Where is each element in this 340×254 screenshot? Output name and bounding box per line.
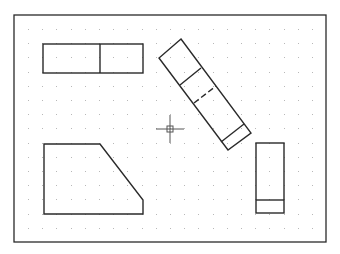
grid-dot: [28, 128, 29, 129]
grid-dot: [85, 86, 86, 87]
grid-dot: [312, 157, 313, 158]
grid-dot: [170, 214, 171, 215]
grid-dot: [99, 128, 100, 129]
grid-dot: [269, 228, 270, 229]
grid-dot: [213, 43, 214, 44]
grid-dot: [198, 128, 199, 129]
grid-dot: [127, 114, 128, 115]
grid-dot: [56, 114, 57, 115]
grid-dot: [198, 228, 199, 229]
grid-dot: [28, 72, 29, 73]
grid-dot: [71, 114, 72, 115]
grid-dot: [198, 57, 199, 58]
grid-dot: [227, 57, 228, 58]
grid-dot: [184, 228, 185, 229]
grid-dot: [184, 171, 185, 172]
grid-dot: [56, 185, 57, 186]
grid-dot: [142, 143, 143, 144]
grid-dot: [312, 100, 313, 101]
grid-dot: [227, 157, 228, 158]
grid-dot: [71, 57, 72, 58]
grid-dot: [42, 185, 43, 186]
grid-dot: [213, 157, 214, 158]
grid-dot: [85, 185, 86, 186]
grid-dot: [213, 114, 214, 115]
rotated-bar[interactable]: [159, 39, 251, 150]
grid-dot: [255, 100, 256, 101]
grid-dot: [71, 228, 72, 229]
grid-dot: [312, 199, 313, 200]
grid-dot: [127, 171, 128, 172]
grid-dot: [142, 29, 143, 30]
grid-dot: [113, 100, 114, 101]
grid-dot: [255, 43, 256, 44]
grid-dot: [227, 114, 228, 115]
grid-dot: [99, 157, 100, 158]
grid-dot: [156, 100, 157, 101]
grid-dot: [42, 228, 43, 229]
grid-dot: [56, 228, 57, 229]
grid-dot: [28, 199, 29, 200]
grid-dot: [241, 100, 242, 101]
grid-dot: [142, 86, 143, 87]
grid-dot: [269, 72, 270, 73]
grid-dot: [113, 228, 114, 229]
grid-dot: [71, 29, 72, 30]
grid-dot: [127, 185, 128, 186]
grid-dot: [85, 199, 86, 200]
grid-dot: [99, 100, 100, 101]
grid-dot: [71, 185, 72, 186]
grid-dot: [255, 228, 256, 229]
grid-dot: [170, 157, 171, 158]
grid-dot: [71, 128, 72, 129]
grid-dot: [142, 228, 143, 229]
grid-dot: [213, 57, 214, 58]
grid-dot: [213, 100, 214, 101]
grid-dot: [28, 185, 29, 186]
grid-dot: [99, 228, 100, 229]
grid-dot: [255, 114, 256, 115]
grid-dot: [113, 57, 114, 58]
small-split-rectangle[interactable]: [256, 143, 284, 213]
grid-dot: [28, 143, 29, 144]
grid-dot: [170, 29, 171, 30]
grid-dot: [170, 228, 171, 229]
grid-dot: [156, 29, 157, 30]
grid-dot: [241, 43, 242, 44]
grid-dot: [56, 171, 57, 172]
grid-dot: [28, 171, 29, 172]
grid-dot: [298, 57, 299, 58]
split-rectangle[interactable]: [43, 44, 143, 73]
grid-dot: [227, 43, 228, 44]
grid-dot: [198, 86, 199, 87]
grid-dot: [85, 29, 86, 30]
grid-dot: [241, 143, 242, 144]
grid-dot: [255, 72, 256, 73]
grid-dot: [71, 157, 72, 158]
grid-dot: [127, 86, 128, 87]
grid-dot: [284, 114, 285, 115]
grid-dot: [227, 29, 228, 30]
grid-dot: [312, 86, 313, 87]
grid-dot: [42, 100, 43, 101]
grid-dot: [298, 72, 299, 73]
grid-dot: [184, 57, 185, 58]
grid-dot: [184, 157, 185, 158]
grid-dot: [284, 128, 285, 129]
grid-dot: [213, 199, 214, 200]
grid-dot: [71, 86, 72, 87]
grid-dot: [269, 57, 270, 58]
grid-dot: [227, 185, 228, 186]
grid-dot: [28, 157, 29, 158]
grid-dot: [113, 29, 114, 30]
grid-dot: [312, 43, 313, 44]
grid-dot: [85, 228, 86, 229]
grid-dot: [227, 228, 228, 229]
grid-dot: [71, 100, 72, 101]
chamfered-block[interactable]: [44, 144, 143, 214]
grid-dot: [127, 57, 128, 58]
grid-dot: [28, 114, 29, 115]
drawing-canvas[interactable]: [0, 0, 340, 254]
grid-dot: [99, 29, 100, 30]
grid-dot: [312, 128, 313, 129]
